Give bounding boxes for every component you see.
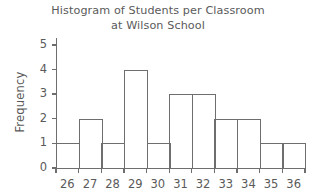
histogram-figure: Histogram of Students per Classroom at W…: [0, 0, 316, 196]
bar-34: [237, 119, 261, 168]
x-tick-6: [191, 168, 192, 173]
x-tick-5: [169, 168, 170, 173]
chart-title: Histogram of Students per Classroom at W…: [0, 4, 316, 33]
bar-26: [56, 143, 80, 168]
bar-28: [101, 143, 125, 168]
bar-30: [147, 143, 171, 168]
y-tick-4: [52, 69, 57, 70]
y-axis-title: Frequency: [12, 52, 28, 152]
y-tick-2: [52, 118, 57, 119]
x-tick-label-29: 29: [123, 178, 147, 190]
x-tick-label-31: 31: [169, 178, 193, 190]
bar-31: [169, 94, 193, 168]
x-tick-8: [236, 168, 237, 173]
x-tick-4: [146, 168, 147, 173]
y-tick-5: [52, 44, 57, 45]
bar-32: [192, 94, 216, 168]
y-tick-label-0: 0: [27, 162, 47, 174]
x-tick-label-35: 35: [259, 178, 283, 190]
bar-29: [124, 70, 148, 168]
x-tick-label-32: 32: [191, 178, 215, 190]
x-tick-label-30: 30: [146, 178, 170, 190]
x-tick-label-27: 27: [78, 178, 102, 190]
bar-35: [260, 143, 284, 168]
y-tick-label-4: 4: [27, 64, 47, 76]
y-tick-label-1: 1: [27, 137, 47, 149]
x-tick-11: [304, 168, 305, 173]
x-axis-line: [56, 168, 305, 169]
chart-title-line-1: Histogram of Students per Classroom: [0, 4, 316, 19]
x-tick-label-28: 28: [101, 178, 125, 190]
x-tick-label-36: 36: [282, 178, 306, 190]
x-tick-3: [123, 168, 124, 173]
y-tick-label-2: 2: [27, 113, 47, 125]
y-axis-title-text: Frequency: [13, 71, 27, 132]
x-tick-0: [55, 168, 56, 173]
x-tick-label-33: 33: [214, 178, 238, 190]
y-tick-label-5: 5: [27, 39, 47, 51]
y-tick-3: [52, 93, 57, 94]
x-tick-10: [282, 168, 283, 173]
y-tick-label-3: 3: [27, 88, 47, 100]
bar-36: [282, 143, 306, 168]
x-tick-1: [78, 168, 79, 173]
bar-27: [79, 119, 103, 168]
x-tick-7: [214, 168, 215, 173]
chart-title-line-2: at Wilson School: [0, 19, 316, 34]
x-tick-label-26: 26: [55, 178, 79, 190]
plot-area: 012345 2627282930313233343536: [56, 38, 305, 168]
bar-33: [214, 119, 238, 168]
x-tick-9: [259, 168, 260, 173]
x-tick-label-34: 34: [236, 178, 260, 190]
x-tick-2: [101, 168, 102, 173]
